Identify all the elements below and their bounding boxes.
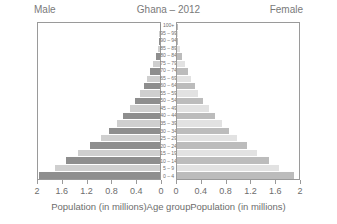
male-bar-50–54 — [135, 98, 160, 104]
axis-tick — [87, 180, 88, 184]
age-group-label: 65 – 69 — [161, 75, 176, 83]
age-group-label: 30 – 34 — [161, 127, 176, 135]
bar-row — [177, 90, 299, 97]
bar-row — [177, 172, 299, 179]
bar-row — [177, 75, 299, 82]
bar-row — [38, 97, 160, 104]
axis-tick — [201, 180, 202, 184]
male-bar-80–84 — [156, 53, 160, 59]
male-axis-caption: Population (in millions) — [37, 200, 161, 214]
bar-row — [38, 112, 160, 119]
bar-row — [177, 45, 299, 52]
male-tick-labels: 21.61.20.80.40 — [37, 185, 161, 197]
bar-row — [38, 90, 160, 97]
female-bar-65–69 — [177, 76, 191, 82]
male-bar-20–24 — [90, 142, 160, 148]
age-group-label: 25 – 29 — [161, 135, 176, 143]
age-group-label: 0 – 4 — [161, 172, 176, 180]
age-group-label: 50 – 54 — [161, 97, 176, 105]
bar-row — [38, 149, 160, 156]
male-bar-65–69 — [147, 76, 160, 82]
bar-row — [38, 68, 160, 75]
female-tick-labels: 00.40.81.21.62 — [176, 185, 300, 197]
female-bar-55–59 — [177, 90, 198, 96]
male-bar-rows — [38, 23, 160, 179]
female-tick-label: 0.8 — [219, 185, 232, 197]
age-group-label: 85 – 89 — [161, 44, 176, 52]
female-bar-85–89 — [177, 46, 180, 52]
female-tick-label: 2 — [297, 185, 302, 197]
bar-row — [177, 31, 299, 38]
axis-tick — [37, 180, 38, 184]
bar-row — [177, 164, 299, 171]
axis-tick — [136, 180, 137, 184]
male-bar-60–64 — [144, 83, 160, 89]
bar-row — [177, 149, 299, 156]
male-tick-label: 1.6 — [56, 185, 69, 197]
bar-row — [38, 45, 160, 52]
age-group-label: 55 – 59 — [161, 90, 176, 98]
male-bar-30–34 — [109, 128, 160, 134]
bar-row — [177, 60, 299, 67]
axis-tick — [226, 180, 227, 184]
female-bar-25–29 — [177, 135, 237, 141]
male-bar-75–79 — [153, 61, 160, 67]
bar-row — [38, 105, 160, 112]
female-bar-90–94 — [177, 38, 178, 44]
female-axis-caption: Population (in millions) — [176, 200, 300, 214]
female-bar-10–14 — [177, 157, 269, 163]
axis-tick — [176, 180, 177, 184]
bar-row — [38, 164, 160, 171]
female-tick-label: 1.6 — [269, 185, 282, 197]
bar-row — [38, 142, 160, 149]
bar-row — [177, 142, 299, 149]
bar-row — [38, 172, 160, 179]
bar-row — [177, 127, 299, 134]
bar-row — [177, 105, 299, 112]
age-group-label: 15 – 19 — [161, 150, 176, 158]
bar-row — [38, 53, 160, 60]
axis-tick — [275, 180, 276, 184]
bar-row — [38, 23, 160, 30]
age-group-label: 100+ — [161, 22, 176, 30]
bar-row — [177, 112, 299, 119]
age-group-label: 95 – 99 — [161, 29, 176, 37]
axis-tick — [62, 180, 63, 184]
male-tick-label: 1.2 — [80, 185, 93, 197]
female-tick-label: 0.4 — [195, 185, 208, 197]
female-bar-75–79 — [177, 61, 185, 67]
age-group-label: 70 – 74 — [161, 67, 176, 75]
bar-row — [177, 83, 299, 90]
population-pyramid-chart: Male Ghana – 2012 Female 0 – 45 – 910 – … — [0, 0, 337, 224]
male-bar-0–4 — [39, 172, 160, 178]
bar-row — [177, 134, 299, 141]
female-bar-35–39 — [177, 120, 222, 126]
female-bar-95–99 — [177, 31, 178, 37]
male-tick-label: 0 — [158, 185, 163, 197]
age-group-label: 80 – 84 — [161, 52, 176, 60]
male-bar-45–49 — [130, 105, 161, 111]
female-bar-50–54 — [177, 98, 203, 104]
age-group-label: 10 – 14 — [161, 157, 176, 165]
axis-tick — [250, 180, 251, 184]
male-bar-70–74 — [150, 68, 160, 74]
bar-row — [38, 120, 160, 127]
female-bar-70–74 — [177, 68, 188, 74]
male-bar-15–19 — [78, 150, 160, 156]
female-bar-0–4 — [177, 172, 294, 178]
age-group-label: 75 – 79 — [161, 60, 176, 68]
male-plot-panel — [37, 22, 161, 180]
bar-row — [177, 38, 299, 45]
bar-row — [38, 60, 160, 67]
age-group-label: 5 – 9 — [161, 165, 176, 173]
female-bar-5–9 — [177, 165, 279, 171]
age-group-label: 20 – 24 — [161, 142, 176, 150]
male-bar-40–44 — [123, 113, 160, 119]
male-bar-55–59 — [140, 90, 160, 96]
male-bar-5–9 — [55, 165, 160, 171]
female-bar-15–19 — [177, 150, 257, 156]
axis-tick — [300, 180, 301, 184]
female-bar-80–84 — [177, 53, 182, 59]
female-bar-rows — [177, 23, 299, 179]
male-bar-25–29 — [101, 135, 160, 141]
